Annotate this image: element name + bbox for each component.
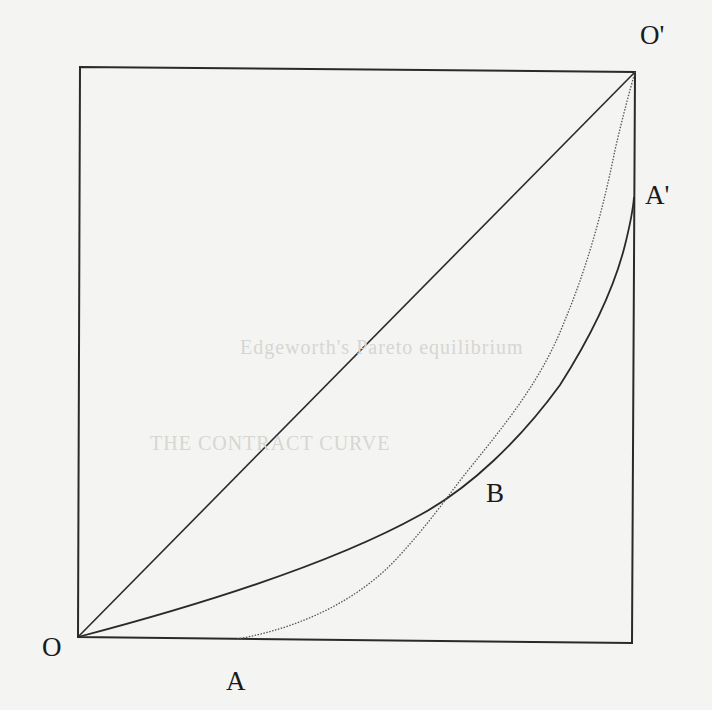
label-a: A — [226, 668, 246, 695]
label-o-prime: O' — [640, 22, 664, 49]
label-b: B — [486, 480, 504, 507]
ghost-text-1: Edgeworth's Pareto equilibrium — [240, 336, 524, 359]
ghost-text-2: THE CONTRACT CURVE — [150, 432, 390, 455]
solid-curve-o-b-aprime — [78, 197, 634, 637]
label-a-prime: A' — [645, 182, 669, 209]
label-o: O — [42, 634, 62, 661]
